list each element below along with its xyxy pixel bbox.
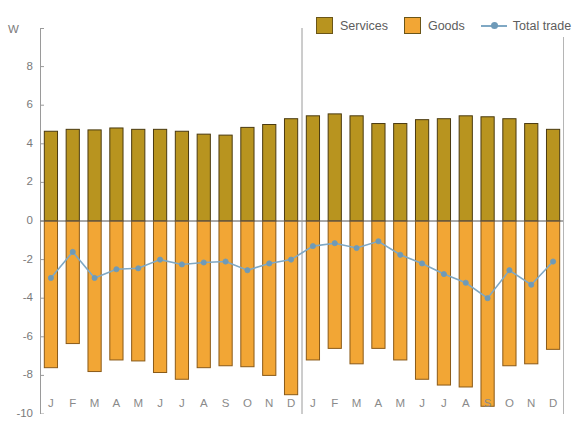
goods-bar <box>350 221 363 364</box>
y-axis-tick-neg6: -6 <box>3 331 33 343</box>
goods-bar <box>284 221 297 395</box>
y-axis-tick-neg2: -2 <box>3 254 33 266</box>
goods-bar <box>219 221 232 366</box>
goods-bar <box>44 221 57 368</box>
y-axis-tick-labels: 86420-2-4-6-8-10 <box>0 0 33 429</box>
goods-bar <box>459 221 472 387</box>
goods-bar <box>132 221 145 361</box>
goods-bar <box>546 221 559 349</box>
services-color-swatch <box>316 17 333 34</box>
total-trade-point <box>310 243 315 248</box>
total-trade-point <box>288 257 293 262</box>
goods-bar <box>110 221 123 360</box>
x-axis-tick-label: D <box>543 398 563 410</box>
total-trade-point <box>136 266 141 271</box>
goods-bar <box>241 221 254 367</box>
legend-item-services: Services <box>316 17 388 34</box>
x-axis-tick-label: A <box>368 398 388 410</box>
total-trade-point <box>245 268 250 273</box>
total-trade-point <box>179 262 184 267</box>
services-bar <box>546 129 559 221</box>
goods-bar <box>175 221 188 379</box>
goods-bar <box>481 221 494 406</box>
x-axis-tick-label: N <box>259 398 279 410</box>
services-bar <box>284 119 297 221</box>
total-trade-point <box>70 249 75 254</box>
y-axis-tick-0: 0 <box>3 215 33 227</box>
x-axis-tick-label: J <box>172 398 192 410</box>
services-bar <box>88 130 101 221</box>
chart-svg <box>40 28 564 414</box>
goods-bar <box>263 221 276 375</box>
total-trade-point <box>376 239 381 244</box>
services-bar <box>175 131 188 221</box>
legend-item-total-trade: Total trade <box>481 19 571 33</box>
x-axis-tick-label: O <box>237 398 257 410</box>
services-bar <box>328 114 341 221</box>
x-axis-tick-label: M <box>390 398 410 410</box>
services-bar <box>153 129 166 221</box>
x-axis-tick-label: J <box>412 398 432 410</box>
total-trade-point <box>201 260 206 265</box>
legend-label-goods: Goods <box>428 19 465 33</box>
y-axis-tick-neg8: -8 <box>3 370 33 382</box>
services-bar <box>394 124 407 221</box>
x-axis-tick-label: J <box>434 398 454 410</box>
legend-label-services: Services <box>340 19 388 33</box>
x-axis-tick-labels: JFMAMJJASONDJFMAMJJASOND <box>40 398 564 420</box>
goods-bar <box>503 221 516 366</box>
x-axis-tick-label: A <box>456 398 476 410</box>
goods-bar <box>437 221 450 385</box>
services-bar <box>263 125 276 222</box>
total-trade-point <box>419 261 424 266</box>
services-bar <box>44 131 57 221</box>
total-trade-point <box>463 280 468 285</box>
services-bar <box>503 119 516 221</box>
y-axis-tick-neg10: -10 <box>3 408 33 420</box>
services-bar <box>415 120 428 221</box>
services-bar <box>350 116 363 221</box>
services-bar <box>525 124 538 221</box>
total-trade-point <box>267 261 272 266</box>
y-axis-tick-neg4: -4 <box>3 292 33 304</box>
services-bar <box>306 116 319 221</box>
services-bar <box>197 134 210 221</box>
x-axis-tick-label: F <box>325 398 345 410</box>
services-bar <box>132 129 145 221</box>
y-axis-tick-6: 6 <box>3 99 33 111</box>
services-bar <box>481 117 494 221</box>
total-trade-point <box>48 275 53 280</box>
total-trade-point <box>441 271 446 276</box>
x-axis-tick-label: M <box>347 398 367 410</box>
x-axis-tick-label: S <box>216 398 236 410</box>
y-axis-tick-4: 4 <box>3 138 33 150</box>
goods-bar <box>328 221 341 348</box>
y-axis-tick-2: 2 <box>3 177 33 189</box>
services-bar <box>110 128 123 221</box>
total-trade-point <box>398 252 403 257</box>
services-bar <box>66 129 79 221</box>
total-trade-point <box>529 282 534 287</box>
total-trade-point <box>507 268 512 273</box>
services-bar <box>241 127 254 221</box>
plot-area <box>40 28 564 414</box>
x-axis-tick-label: D <box>281 398 301 410</box>
x-axis-tick-label: J <box>41 398 61 410</box>
x-axis-tick-label: J <box>303 398 323 410</box>
goods-bar <box>415 221 428 379</box>
goods-bar <box>394 221 407 360</box>
x-axis-tick-label: S <box>478 398 498 410</box>
legend-label-total-trade: Total trade <box>513 19 571 33</box>
services-bar <box>219 135 232 221</box>
total-trade-point <box>332 241 337 246</box>
x-axis-tick-label: O <box>499 398 519 410</box>
x-axis-tick-label: M <box>85 398 105 410</box>
total-trade-point <box>354 245 359 250</box>
goods-bar <box>153 221 166 373</box>
total-trade-point <box>114 267 119 272</box>
x-axis-tick-label: N <box>521 398 541 410</box>
x-axis-tick-label: F <box>63 398 83 410</box>
total-trade-point <box>550 259 555 264</box>
total-trade-point <box>223 259 228 264</box>
services-bar <box>459 116 472 221</box>
